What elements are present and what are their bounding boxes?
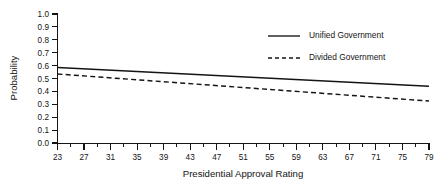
y-axis-title: Probability (8, 55, 19, 100)
chart-legend: Unified GovernmentDivided Government (268, 30, 386, 62)
y-tick-label: 0.4 (38, 87, 50, 96)
series-line-1 (58, 68, 430, 87)
legend-label-1: Unified Government (309, 30, 384, 40)
y-axis: 0.00.10.20.30.40.50.60.70.80.91.0 (38, 10, 58, 148)
y-tick-label: 0.0 (38, 139, 50, 148)
y-tick-label: 0.9 (38, 23, 50, 32)
chart-figure: 0.00.10.20.30.40.50.60.70.80.91.0 232731… (0, 0, 446, 188)
x-tick-label: 47 (212, 153, 222, 162)
x-axis: 232731353943475155596367717579 (53, 143, 434, 162)
y-axis-tick-labels: 0.00.10.20.30.40.50.60.70.80.91.0 (38, 10, 50, 148)
x-tick-label: 31 (106, 153, 116, 162)
x-tick-label: 43 (186, 153, 196, 162)
x-tick-label: 35 (133, 153, 143, 162)
x-tick-label: 55 (265, 153, 275, 162)
y-tick-label: 0.8 (38, 36, 50, 45)
series-line-2 (58, 74, 430, 101)
y-axis-ticks (52, 14, 58, 143)
x-tick-label: 59 (292, 153, 302, 162)
y-tick-label: 0.5 (38, 75, 50, 84)
y-tick-label: 0.6 (38, 62, 50, 71)
line-chart: 0.00.10.20.30.40.50.60.70.80.91.0 232731… (0, 0, 446, 188)
x-tick-label: 39 (159, 153, 169, 162)
x-tick-label: 63 (318, 153, 328, 162)
legend-label-2: Divided Government (309, 52, 386, 62)
y-tick-label: 0.3 (38, 100, 50, 109)
x-tick-label: 75 (398, 153, 408, 162)
y-tick-label: 1.0 (38, 10, 50, 19)
data-series-group (58, 68, 430, 102)
x-axis-title: Presidential Approval Rating (183, 168, 304, 179)
x-tick-label: 27 (79, 153, 89, 162)
x-tick-label: 51 (239, 153, 249, 162)
y-tick-label: 0.2 (38, 113, 50, 122)
y-tick-label: 0.1 (38, 126, 50, 135)
x-tick-label: 23 (53, 153, 63, 162)
x-tick-label: 79 (424, 153, 434, 162)
x-axis-tick-labels: 232731353943475155596367717579 (53, 153, 434, 162)
y-tick-label: 0.7 (38, 49, 50, 58)
x-tick-label: 71 (371, 153, 381, 162)
x-tick-label: 67 (345, 153, 355, 162)
